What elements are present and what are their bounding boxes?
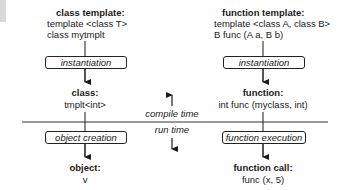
left-template-line-1: template <class T>	[47, 18, 127, 29]
left-final-value: v	[83, 174, 88, 185]
left-result-value: tmplt<int>	[64, 99, 106, 110]
right-result-value: int func (myclass, int)	[218, 99, 307, 110]
right-template-heading: function template:	[222, 7, 304, 18]
left-object-creation-box: object creation	[45, 131, 127, 144]
right-instantiation-box: instantiation	[223, 56, 305, 69]
right-final-value: func (x, 5)	[242, 174, 284, 185]
left-instantiation-box: instantiation	[45, 56, 127, 69]
right-final-heading: function call:	[233, 162, 292, 173]
right-result-heading: function:	[243, 87, 284, 98]
run-time-label: run time	[155, 124, 189, 135]
left-result-heading: class:	[72, 87, 99, 98]
left-final-heading: object:	[69, 162, 100, 173]
right-function-execution-box: function execution	[222, 131, 306, 144]
right-template-line-2: B func (A a, B b)	[214, 29, 283, 40]
left-template-line-2: class mytmplt	[47, 29, 105, 40]
right-template-line-1: template <class A, class B>	[214, 18, 330, 29]
compile-time-label: compile time	[145, 108, 198, 119]
left-template-heading: class template:	[56, 7, 125, 18]
